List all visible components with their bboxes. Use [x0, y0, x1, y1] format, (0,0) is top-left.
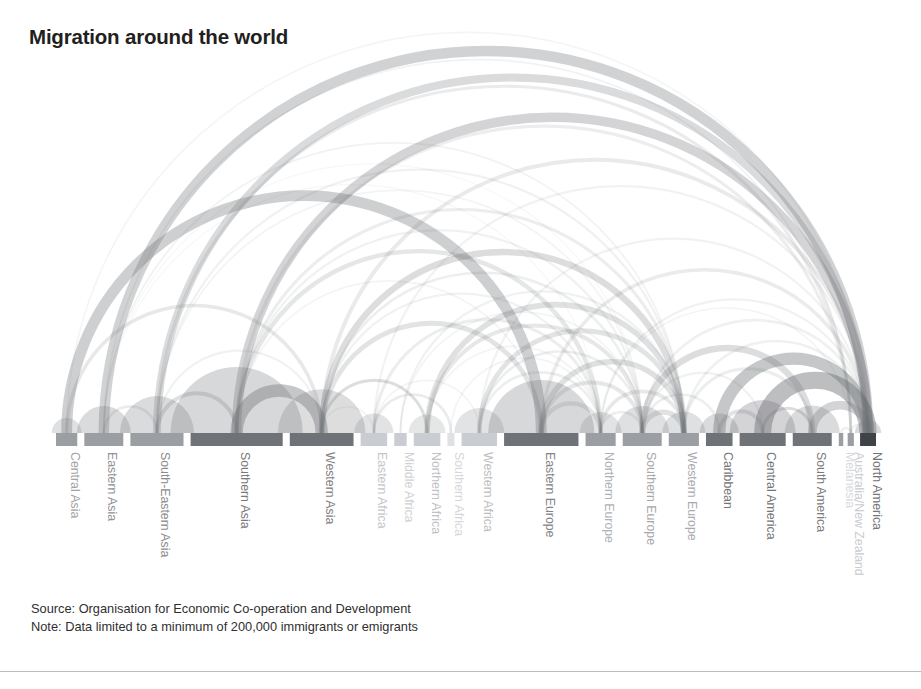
node-label: Australia/New Zealand	[852, 452, 866, 576]
node-bar[interactable]: North America	[860, 433, 876, 446]
node-bar[interactable]: Central America	[740, 433, 786, 446]
node-bar[interactable]: Western Asia	[290, 433, 354, 446]
node-label: Southern Asia	[238, 452, 252, 529]
source-line: Source: Organisation for Economic Co-ope…	[31, 600, 418, 618]
node-bar[interactable]: South-Eastern Asia	[130, 433, 183, 446]
node-bar[interactable]: Melanesia	[839, 433, 843, 446]
node-label: Southern Europe	[644, 452, 658, 545]
node-bar[interactable]: Western Europe	[669, 433, 699, 446]
node-label: Middle Africa	[402, 452, 416, 523]
node-bar-layer: Central AsiaEastern AsiaSouth-Eastern As…	[56, 433, 876, 446]
node-label: Central Asia	[68, 452, 82, 518]
arc-diagram-canvas: Central AsiaEastern AsiaSouth-Eastern As…	[0, 0, 921, 689]
node-label-layer: Central AsiaEastern AsiaSouth-Eastern As…	[68, 452, 883, 576]
arc-layer	[52, 32, 882, 433]
node-bar[interactable]: Southern Asia	[191, 433, 283, 446]
node-bar[interactable]: Caribbean	[706, 433, 733, 446]
node-label: Northern Europe	[602, 452, 616, 543]
node-label: Northern Africa	[429, 452, 443, 534]
node-bar[interactable]: South America	[793, 433, 832, 446]
node-bar[interactable]: Northern Africa	[414, 433, 441, 446]
node-bar[interactable]: Eastern Europe	[504, 433, 578, 446]
node-bar[interactable]: Central Asia	[56, 433, 77, 446]
node-label: Central America	[764, 452, 778, 540]
node-label: Western Europe	[685, 452, 699, 541]
node-bar[interactable]: Southern Africa	[447, 433, 454, 446]
node-bar[interactable]: Middle Africa	[394, 433, 406, 446]
node-bar[interactable]: Western Africa	[462, 433, 497, 446]
note-line: Note: Data limited to a minimum of 200,0…	[31, 618, 418, 636]
node-bar[interactable]: Australia/New Zealand	[848, 433, 854, 446]
node-bar[interactable]: Eastern Africa	[361, 433, 388, 446]
node-bar[interactable]: Northern Europe	[586, 433, 616, 446]
node-label: North America	[870, 452, 884, 530]
node-bar[interactable]: Southern Europe	[623, 433, 662, 446]
migration-arc-diagram-figure: Migration around the world Central AsiaE…	[0, 0, 921, 689]
node-label: Western Asia	[323, 452, 337, 524]
node-label: Western Africa	[481, 452, 495, 532]
node-label: Eastern Europe	[543, 452, 557, 538]
node-label: Eastern Asia	[105, 452, 119, 521]
node-bar[interactable]: Eastern Asia	[84, 433, 123, 446]
node-label: South America	[814, 452, 828, 532]
bottom-divider	[0, 671, 921, 672]
node-label: South-Eastern Asia	[158, 452, 172, 557]
node-label: Caribbean	[721, 452, 735, 509]
footer-notes: Source: Organisation for Economic Co-ope…	[31, 600, 418, 636]
node-label: Southern Africa	[452, 452, 466, 536]
node-label: Eastern Africa	[375, 452, 389, 529]
